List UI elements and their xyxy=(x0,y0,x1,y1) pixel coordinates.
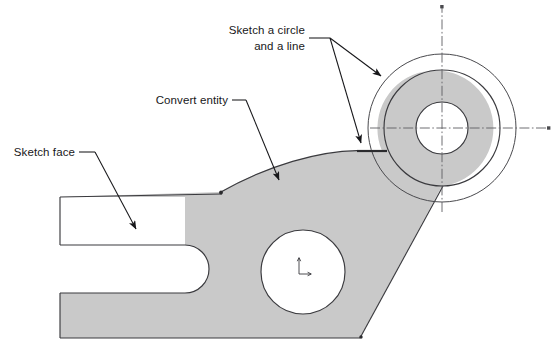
part-body-group xyxy=(60,70,500,338)
centerline-endpoint-icon-top xyxy=(440,5,443,8)
label-sketch-a-circle-line1: Sketch a circle xyxy=(229,24,305,36)
label-sketch-a-circle-line2: and a line xyxy=(254,40,305,52)
edge-endpoint-dot xyxy=(219,191,223,195)
technical-drawing-svg: Sketch a circle and a line Convert entit… xyxy=(0,0,556,350)
leader-sketch-face-arrow xyxy=(95,152,136,229)
leader-sketch-circle-to-circle xyxy=(330,38,381,76)
leader-convert-entity-arrow xyxy=(246,100,279,180)
diagonal-endpoint-dot xyxy=(359,335,362,338)
slot-edge xyxy=(60,245,209,293)
centerline-endpoint-icon-right xyxy=(547,126,550,129)
drawing-canvas: Sketch a circle and a line Convert entit… xyxy=(0,0,556,350)
leader-sketch-circle-to-line xyxy=(330,38,361,143)
label-sketch-face: Sketch face xyxy=(14,146,75,158)
label-convert-entity: Convert entity xyxy=(156,94,228,106)
